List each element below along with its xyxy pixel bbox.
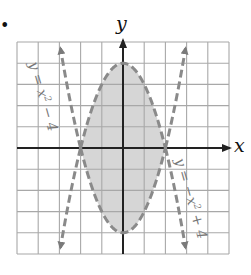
y-axis-label: y: [116, 12, 127, 34]
graph: [0, 0, 251, 275]
x-axis-label: x: [234, 134, 245, 156]
